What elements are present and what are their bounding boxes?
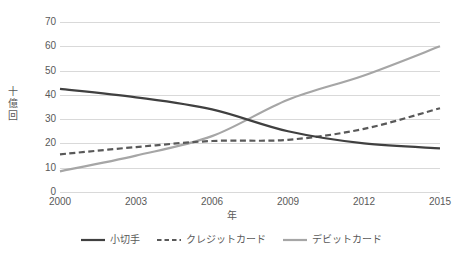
- legend-item[interactable]: デビットカード: [283, 234, 382, 246]
- x-tick-label: 2009: [266, 196, 310, 208]
- legend-swatch-icon: [283, 235, 307, 245]
- y-tick-label: 10: [26, 163, 56, 173]
- x-axis: 200020032006200920122015: [60, 196, 440, 210]
- x-tick-label: 2000: [38, 196, 82, 208]
- y-tick-label: 20: [26, 138, 56, 148]
- x-tick-label: 2012: [342, 196, 386, 208]
- y-tick-label: 30: [26, 114, 56, 124]
- x-tick-label: 2003: [114, 196, 158, 208]
- legend-label: 小切手: [110, 234, 140, 246]
- y-tick-label: 50: [26, 66, 56, 76]
- plot-area: [60, 22, 440, 192]
- x-tick-label: 2015: [418, 196, 462, 208]
- legend-item[interactable]: クレジットカード: [157, 234, 266, 246]
- y-axis-title-char: 十: [6, 86, 20, 98]
- legend-label: クレジットカード: [186, 234, 266, 246]
- y-tick-label: 40: [26, 90, 56, 100]
- y-axis-title: 十 億 回: [6, 86, 20, 122]
- series-container: [60, 22, 440, 192]
- series-line: [60, 46, 440, 171]
- legend-item[interactable]: 小切手: [81, 234, 140, 246]
- y-tick-label: 60: [26, 41, 56, 51]
- line-chart: 十 億 回 706050403020100 200020032006200920…: [0, 0, 463, 265]
- x-tick-label: 2006: [190, 196, 234, 208]
- y-tick-label: 70: [26, 17, 56, 27]
- x-axis-title: 年: [0, 210, 463, 222]
- y-axis-title-char: 億: [6, 98, 20, 110]
- y-axis-title-char: 回: [6, 110, 20, 122]
- gridline: [60, 192, 440, 193]
- series-line: [60, 108, 440, 154]
- y-axis: 706050403020100: [20, 22, 56, 192]
- legend-swatch-icon: [157, 235, 181, 245]
- legend: 小切手クレジットカードデビットカード: [0, 234, 463, 246]
- legend-swatch-icon: [81, 235, 105, 245]
- legend-label: デビットカード: [312, 234, 382, 246]
